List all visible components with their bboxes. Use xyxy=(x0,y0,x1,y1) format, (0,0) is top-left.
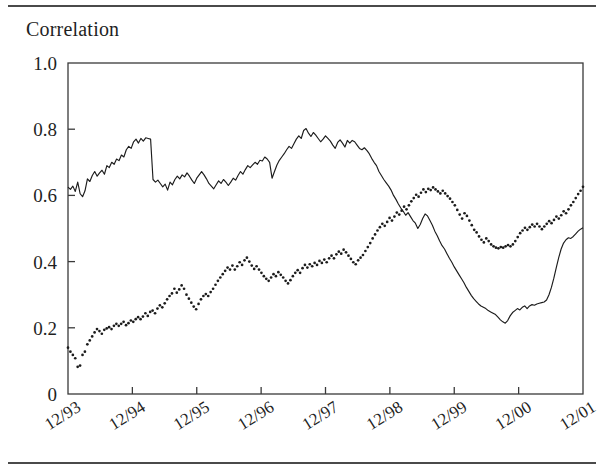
data-point xyxy=(219,276,222,279)
data-point xyxy=(296,269,299,272)
data-point xyxy=(437,190,440,193)
data-point xyxy=(504,245,507,248)
data-point xyxy=(541,228,544,231)
data-point xyxy=(253,268,256,271)
data-point xyxy=(185,293,188,296)
chart-canvas: 00.20.40.60.81.012/9312/9412/9512/9612/9… xyxy=(0,0,604,470)
data-point xyxy=(357,259,360,262)
data-point xyxy=(514,240,517,243)
data-point xyxy=(485,237,488,240)
y-tick-label: 0.6 xyxy=(33,185,57,206)
data-point xyxy=(248,260,251,263)
data-point xyxy=(543,225,546,228)
data-point xyxy=(163,302,166,305)
data-point xyxy=(444,192,447,195)
data-point xyxy=(468,219,471,222)
data-point xyxy=(113,324,116,327)
data-point xyxy=(553,219,556,222)
data-point xyxy=(207,295,210,298)
data-point xyxy=(287,282,290,285)
y-tick-label: 0.8 xyxy=(33,119,57,140)
data-point xyxy=(294,272,297,275)
data-point xyxy=(350,258,353,261)
data-point xyxy=(507,244,510,247)
data-point xyxy=(91,335,94,338)
data-point xyxy=(560,214,563,217)
data-point xyxy=(492,245,495,248)
data-point xyxy=(533,225,536,228)
data-point xyxy=(420,191,423,194)
y-tick-label: 0 xyxy=(48,384,58,405)
data-point xyxy=(67,346,70,349)
data-point xyxy=(284,279,287,282)
data-point xyxy=(226,266,229,269)
data-point xyxy=(531,223,534,226)
data-point xyxy=(323,258,326,261)
data-point xyxy=(555,215,558,218)
y-tick-label: 1.0 xyxy=(33,53,57,74)
data-point xyxy=(454,204,457,207)
data-point xyxy=(146,315,149,318)
data-point xyxy=(393,215,396,218)
data-point xyxy=(250,264,253,267)
data-point xyxy=(151,309,154,312)
data-point xyxy=(270,276,273,279)
data-point xyxy=(446,195,449,198)
data-point xyxy=(405,208,408,211)
data-point xyxy=(410,200,413,203)
data-point xyxy=(395,211,398,214)
data-point xyxy=(538,225,541,228)
data-point xyxy=(88,339,91,342)
data-point xyxy=(195,308,198,311)
x-tick-label: 12/01 xyxy=(556,397,599,434)
data-point xyxy=(279,273,282,276)
data-point xyxy=(528,226,531,229)
data-point xyxy=(545,223,548,226)
data-point xyxy=(306,266,309,269)
data-point xyxy=(258,268,261,271)
data-point xyxy=(183,287,186,290)
data-point xyxy=(110,328,113,331)
data-point xyxy=(434,188,437,191)
data-point xyxy=(192,305,195,308)
data-point xyxy=(478,235,481,238)
data-point xyxy=(548,220,551,223)
data-point xyxy=(451,201,454,204)
data-point xyxy=(79,364,82,367)
data-point xyxy=(449,197,452,200)
y-tick-label: 0.4 xyxy=(33,252,57,273)
data-point xyxy=(473,228,476,231)
data-point xyxy=(202,295,205,298)
x-tick-label: 12/00 xyxy=(492,397,535,434)
data-point xyxy=(582,185,585,188)
data-point xyxy=(328,257,331,260)
data-point xyxy=(260,272,263,275)
data-point xyxy=(282,276,285,279)
data-point xyxy=(311,265,314,268)
data-point xyxy=(204,293,207,296)
data-point xyxy=(417,195,420,198)
data-point xyxy=(103,328,106,331)
data-point xyxy=(132,320,135,323)
data-point xyxy=(557,217,560,220)
data-point xyxy=(233,268,236,271)
data-point xyxy=(354,263,357,266)
data-point xyxy=(521,229,524,232)
data-point xyxy=(497,247,500,250)
data-point xyxy=(567,208,570,211)
data-point xyxy=(422,188,425,191)
data-point xyxy=(98,330,101,333)
data-point xyxy=(369,242,372,245)
y-tick-label: 0.2 xyxy=(33,318,57,339)
data-point xyxy=(570,204,573,207)
data-point xyxy=(231,264,234,267)
data-point xyxy=(209,291,212,294)
data-point xyxy=(308,263,311,266)
data-point xyxy=(502,246,505,249)
data-point xyxy=(178,288,181,291)
data-point xyxy=(415,193,418,196)
data-point xyxy=(400,209,403,212)
data-point xyxy=(267,279,270,282)
data-point xyxy=(171,292,174,295)
data-point xyxy=(424,191,427,194)
